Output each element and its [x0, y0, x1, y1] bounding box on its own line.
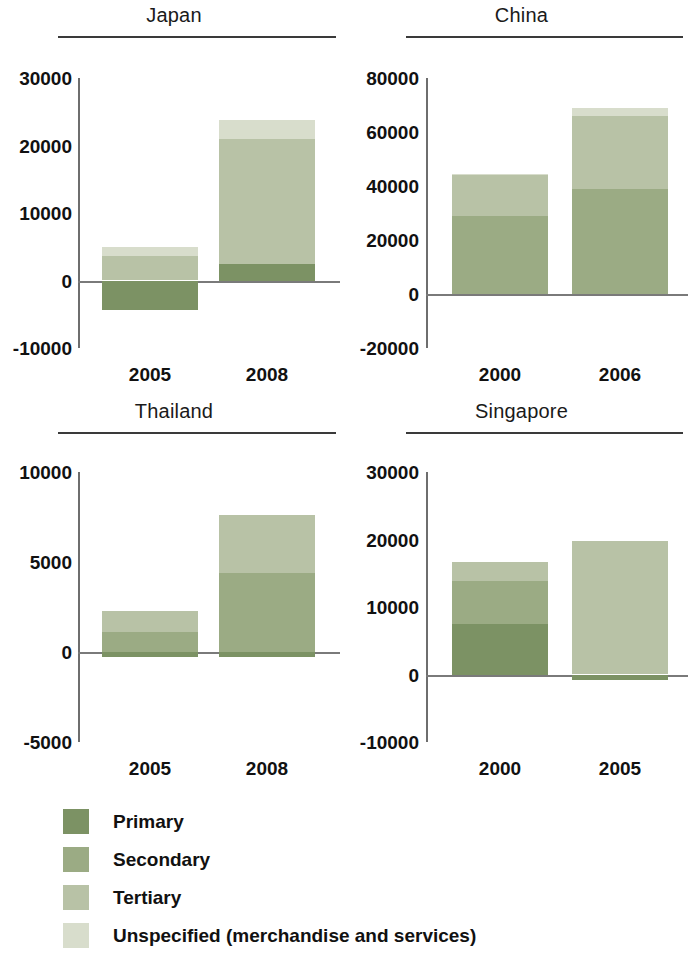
- y-tick-label: 0: [299, 285, 419, 304]
- x-axis-label: 2005: [90, 365, 210, 384]
- bar-segment-primary: [219, 652, 315, 657]
- plot-area: -10000010000200003000020052008: [0, 0, 348, 396]
- bar-segment-primary: [102, 652, 198, 657]
- x-axis-label: 2006: [560, 365, 680, 384]
- bar-segment-tertiary: [452, 175, 548, 216]
- y-tick-label: -10000: [299, 733, 419, 752]
- bar-segment-tertiary: [572, 116, 668, 189]
- bar-segment-secondary: [452, 581, 548, 624]
- y-tick-label: 0: [299, 666, 419, 685]
- y-axis: [78, 78, 80, 348]
- y-tick-label: 5000: [0, 553, 72, 572]
- y-tick-label: 20000: [0, 137, 72, 156]
- x-axis-label: 2005: [560, 759, 680, 778]
- bar-segment-primary: [452, 624, 548, 675]
- y-axis: [78, 472, 80, 742]
- bar-segment-primary: [219, 264, 315, 281]
- chart-panel-thailand: Thailand-5000050001000020052008: [0, 396, 348, 790]
- legend-swatch-icon: [63, 847, 89, 872]
- bar-segment-tertiary: [102, 256, 198, 280]
- legend-item: Secondary: [63, 844, 210, 874]
- chart-panel-singapore: Singapore-10000010000200003000020002005: [348, 396, 695, 790]
- chart-panel-japan: Japan-10000010000200003000020052008: [0, 0, 348, 396]
- y-tick-label: 30000: [0, 69, 72, 88]
- bar-segment-primary: [572, 675, 668, 680]
- y-tick-label: 30000: [299, 463, 419, 482]
- plot-area: -10000010000200003000020002005: [348, 396, 695, 790]
- y-axis: [426, 472, 428, 742]
- y-tick-label: 20000: [299, 531, 419, 550]
- legend-item: Tertiary: [63, 882, 181, 912]
- y-tick-label: 20000: [299, 231, 419, 250]
- bar-segment-tertiary: [572, 541, 668, 675]
- y-axis: [426, 78, 428, 348]
- bar-segment-secondary: [452, 216, 548, 294]
- legend-swatch-icon: [63, 809, 89, 834]
- y-tick-label: 10000: [0, 463, 72, 482]
- x-axis-label: 2005: [90, 759, 210, 778]
- chart-legend: PrimarySecondaryTertiaryUnspecified (mer…: [0, 790, 695, 976]
- x-axis-label: 2000: [440, 365, 560, 384]
- x-axis-label: 2000: [440, 759, 560, 778]
- chart-panel-china: China-2000002000040000600008000020002006: [348, 0, 695, 396]
- bar-segment-secondary: [102, 632, 198, 652]
- legend-item: Primary: [63, 806, 184, 836]
- legend-item: Unspecified (merchandise and services): [63, 920, 476, 950]
- legend-label: Primary: [113, 812, 184, 831]
- bar-segment-unspecified: [452, 174, 548, 175]
- y-tick-label: -20000: [299, 339, 419, 358]
- x-axis-label: 2008: [207, 759, 327, 778]
- bar-segment-tertiary: [452, 562, 548, 581]
- legend-swatch-icon: [63, 885, 89, 910]
- legend-label: Secondary: [113, 850, 210, 869]
- y-tick-label: -10000: [0, 339, 72, 358]
- plot-area: -5000050001000020052008: [0, 396, 348, 790]
- chart-panel-grid: Japan-10000010000200003000020052008China…: [0, 0, 695, 790]
- y-tick-label: 0: [0, 643, 72, 662]
- y-tick-label: -5000: [0, 733, 72, 752]
- legend-swatch-icon: [63, 923, 89, 948]
- y-tick-label: 60000: [299, 123, 419, 142]
- zero-line: [426, 294, 688, 296]
- y-tick-label: 80000: [299, 69, 419, 88]
- bar-segment-unspecified: [572, 108, 668, 116]
- bar-segment-secondary: [572, 189, 668, 294]
- legend-label: Tertiary: [113, 888, 181, 907]
- y-tick-label: 0: [0, 272, 72, 291]
- y-tick-label: 40000: [299, 177, 419, 196]
- bar-segment-tertiary: [102, 611, 198, 633]
- bar-segment-primary: [102, 281, 198, 310]
- x-axis-label: 2008: [207, 365, 327, 384]
- bar-segment-unspecified: [102, 247, 198, 256]
- y-tick-label: 10000: [299, 598, 419, 617]
- plot-area: -2000002000040000600008000020002006: [348, 0, 695, 396]
- legend-label: Unspecified (merchandise and services): [113, 926, 476, 945]
- y-tick-label: 10000: [0, 204, 72, 223]
